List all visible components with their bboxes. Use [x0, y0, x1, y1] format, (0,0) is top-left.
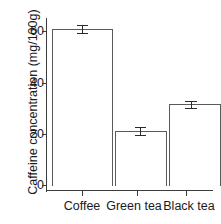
bar-black-tea — [169, 104, 221, 186]
error-bar-cap-top — [77, 25, 88, 26]
error-bar-coffee — [77, 25, 88, 34]
y-tick-label-40: 40 — [22, 77, 44, 90]
error-bar-cap-bottom — [77, 33, 88, 34]
y-tick-label-0: 0 — [22, 179, 44, 192]
plot-area — [46, 18, 214, 193]
error-bar-cap-bottom — [135, 135, 146, 136]
error-bar-black-tea — [185, 101, 197, 109]
x-axis-line — [46, 190, 213, 191]
x-tick-mark-green-tea — [137, 191, 138, 196]
x-tick-label-black-tea: Black tea — [157, 200, 221, 213]
error-bar-cap-top — [185, 101, 197, 102]
x-tick-mark-black-tea — [186, 191, 187, 196]
error-bar-cap-bottom — [185, 108, 197, 109]
x-tick-mark-coffee — [82, 191, 83, 196]
y-tick-label-group: 0 20 40 60 — [20, 0, 44, 224]
bar-green-tea — [115, 131, 167, 186]
error-bar-cap-top — [135, 127, 146, 128]
y-tick-mark-20 — [42, 134, 46, 135]
y-tick-mark-0 — [42, 185, 46, 186]
error-bar-green-tea — [135, 127, 146, 136]
y-tick-mark-40 — [42, 83, 46, 84]
bar-coffee — [52, 29, 113, 186]
y-tick-label-60: 60 — [22, 25, 44, 38]
y-tick-label-20: 20 — [22, 128, 44, 141]
y-axis-line — [46, 18, 47, 192]
caffeine-bar-chart-figure: Caffeine concentration (mg/100g) 0 20 40… — [0, 0, 221, 224]
y-tick-mark-60 — [42, 31, 46, 32]
